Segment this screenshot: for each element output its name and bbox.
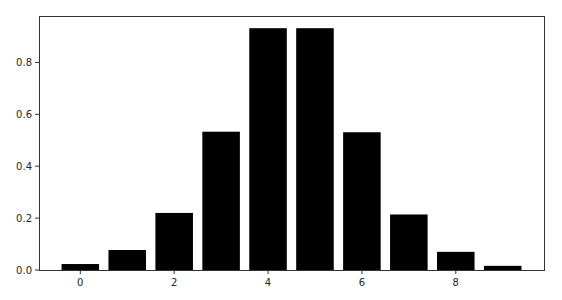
- bar-2: [155, 213, 193, 270]
- bar-5: [296, 28, 334, 270]
- y-axis-ticks: 0.00.20.40.60.8: [16, 57, 39, 276]
- bar-9: [484, 266, 522, 270]
- bar-7: [390, 214, 428, 270]
- x-tick-label: 0: [77, 277, 83, 288]
- y-tick-label: 0.8: [16, 57, 32, 68]
- y-tick-label: 0.6: [16, 109, 32, 120]
- bar-series: [62, 28, 522, 270]
- bar-8: [437, 252, 475, 270]
- x-tick-label: 2: [171, 277, 177, 288]
- y-tick-label: 0.0: [16, 265, 32, 276]
- y-tick-label: 0.2: [16, 213, 32, 224]
- x-tick-label: 4: [265, 277, 271, 288]
- x-axis-ticks: 02468: [77, 270, 459, 288]
- bar-chart: 02468 0.00.20.40.60.8: [0, 0, 562, 300]
- bar-3: [202, 132, 240, 270]
- bar-0: [62, 264, 100, 270]
- bar-1: [108, 250, 146, 270]
- bar-6: [343, 132, 381, 270]
- bar-4: [249, 28, 287, 270]
- x-tick-label: 6: [359, 277, 365, 288]
- plot-frame: [40, 17, 545, 271]
- y-tick-label: 0.4: [16, 161, 32, 172]
- x-tick-label: 8: [453, 277, 459, 288]
